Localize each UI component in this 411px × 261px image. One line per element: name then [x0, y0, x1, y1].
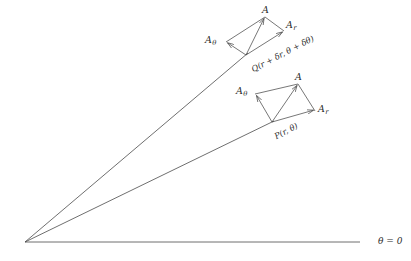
parallelogram-Q-side-upper-right: [265, 17, 284, 31]
label-P-component-A-r-base: A: [318, 103, 325, 114]
label-Q-component-A-theta: Aθ: [205, 35, 216, 47]
vector-parallelogram-at-P: [255, 84, 315, 122]
label-P-component-A-r-subscript: r: [325, 108, 329, 116]
parallelogram-P-side-upper-right: [298, 84, 315, 111]
parallelogram-Q-side-upper-left: [226, 17, 265, 42]
label-theta-zero-axis: θ = 0: [378, 237, 402, 246]
parallelogram-P-side-upper-left: [255, 84, 298, 94]
label-P-component-A-theta-base: A: [236, 85, 243, 96]
radial-ray-to-P: [25, 121, 274, 242]
label-Q-component-A-theta-base: A: [205, 34, 212, 45]
radial-ray-to-Q: [25, 53, 248, 242]
vector-parallelogram-at-Q: [226, 17, 284, 55]
label-P-resultant-A: A: [295, 72, 302, 82]
label-P-component-A-theta: Aθ: [236, 86, 247, 98]
vector-Q-A-theta: [228, 43, 247, 55]
label-Q-component-A-theta-subscript: θ: [212, 39, 217, 47]
label-Q-component-A-r-subscript: r: [293, 24, 297, 32]
polar-vector-diagram: A Aθ Ar Q(r + δr, θ + δθ) A Aθ Ar P(r, θ…: [0, 0, 411, 261]
label-P-component-A-theta-subscript: θ: [243, 90, 248, 98]
vector-P-A-theta: [257, 96, 273, 123]
label-Q-component-A-r: Ar: [286, 20, 297, 32]
label-P-component-A-r: Ar: [318, 104, 329, 116]
vector-P-A-resultant: [272, 86, 297, 123]
label-Q-component-A-r-base: A: [286, 19, 293, 30]
label-Q-resultant-A: A: [262, 5, 269, 15]
